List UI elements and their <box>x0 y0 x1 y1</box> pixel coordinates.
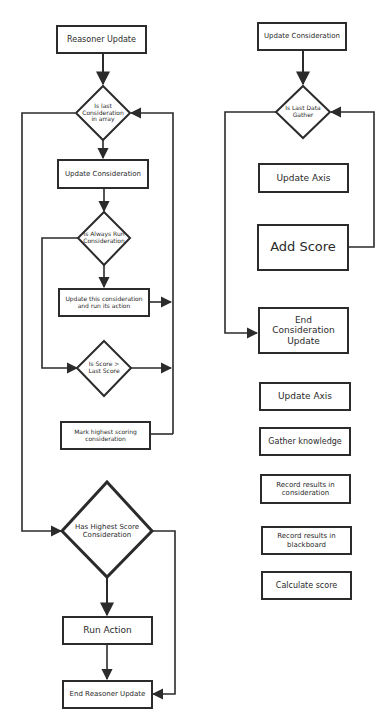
update-consideration-step: Update Consideration <box>57 159 149 189</box>
end-reasoner-update: End Reasoner Update <box>62 680 153 709</box>
flowchart-diagram: Reasoner Update Is last Consideration in… <box>0 0 389 726</box>
end-consideration-update: End Consideration Update <box>258 307 349 354</box>
decision-always-run-label: Is Always Run Consideration <box>82 228 126 248</box>
axis-step-record-blackboard: Record results in blackboard <box>261 526 352 555</box>
decision-has-highest-label: Has Highest Score Consideration <box>72 518 142 544</box>
axis-step-update-axis: Update Axis <box>259 382 351 411</box>
decision-last-data-label: Is Last Data Gather <box>281 102 325 122</box>
decision-score-greater-label: Is Score > Last Score <box>82 358 126 378</box>
update-consideration-start: Update Consideration <box>257 22 347 51</box>
decision-last-consideration-label: Is last Consideration in array <box>80 100 126 126</box>
axis-step-calculate-score: Calculate score <box>261 571 352 600</box>
update-axis-step: Update Axis <box>258 163 349 193</box>
axis-step-record-consideration: Record results in consideration <box>260 474 351 504</box>
connector-lines <box>0 0 389 726</box>
run-action-step: Run Action <box>62 616 153 645</box>
add-score-step: Add Score <box>257 224 349 271</box>
reasoner-update-start: Reasoner Update <box>56 25 147 54</box>
mark-highest-step: Mark highest scoring consideration <box>60 421 151 450</box>
axis-step-gather-knowledge: Gather knowledge <box>259 427 351 456</box>
update-and-run-step: Update this consideration and run its ac… <box>58 288 150 317</box>
